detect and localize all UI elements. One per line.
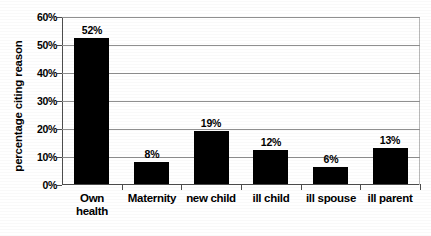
x-tick-mark	[181, 184, 182, 190]
y-tick-label: 50%	[23, 39, 57, 51]
y-tick-mark	[57, 17, 62, 18]
y-tick-label: 40%	[23, 67, 57, 79]
bar	[194, 131, 229, 184]
y-tick-mark	[57, 157, 62, 158]
x-tick-mark	[420, 184, 421, 190]
y-tick-mark	[57, 45, 62, 46]
bar	[313, 167, 348, 184]
gridline	[62, 129, 420, 130]
x-tick-mark	[241, 184, 242, 190]
plot-area: 52%8%19%12%6%13%	[62, 17, 420, 185]
bar-value-label: 12%	[248, 136, 294, 148]
y-tick-mark	[57, 73, 62, 74]
x-tick-mark	[360, 184, 361, 190]
y-tick-mark	[57, 185, 62, 186]
x-category-label-line: health	[56, 205, 128, 218]
y-tick-mark	[57, 129, 62, 130]
bar	[134, 162, 169, 184]
y-tick-mark	[57, 101, 62, 102]
bar-value-label: 8%	[129, 148, 175, 160]
x-tick-mark	[301, 184, 302, 190]
bar	[253, 150, 288, 184]
bar-value-label: 19%	[188, 117, 234, 129]
gridline	[62, 73, 420, 74]
bar	[74, 38, 109, 184]
bar-value-label: 13%	[367, 134, 413, 146]
y-tick-label: 20%	[23, 123, 57, 135]
gridline	[62, 101, 420, 102]
y-tick-label: 0%	[23, 179, 57, 191]
x-tick-mark	[122, 184, 123, 190]
x-category-label: ill parent	[354, 192, 426, 205]
y-tick-label: 30%	[23, 95, 57, 107]
y-tick-label: 10%	[23, 151, 57, 163]
bar	[373, 148, 408, 184]
gridline	[62, 45, 420, 46]
bar-value-label: 52%	[69, 24, 115, 36]
y-tick-label: 60%	[23, 11, 57, 23]
bar-chart: percentage citing reason 52%8%19%12%6%13…	[0, 0, 431, 236]
gridline	[62, 17, 420, 18]
gridline	[62, 157, 420, 158]
x-category-label-line: ill parent	[354, 192, 426, 205]
bar-value-label: 6%	[308, 153, 354, 165]
